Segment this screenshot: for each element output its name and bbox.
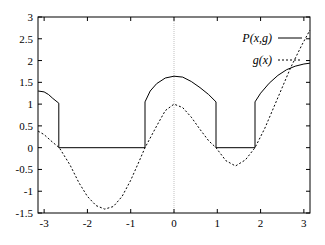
y-tick-label: 0.5 (19, 120, 33, 132)
legend: P(x,g) g(x) (241, 31, 302, 67)
y-tick-label: 2 (28, 55, 34, 67)
y-tick-label: 1.5 (19, 76, 33, 88)
y-tick-label: -1 (24, 185, 33, 197)
x-axis-tick-labels: -3-2-10123 (40, 217, 308, 229)
x-tick-label: -1 (126, 217, 135, 229)
x-tick-label: -3 (40, 217, 50, 229)
y-axis-tick-labels: -1.5-1-0.500.511.522.53 (16, 11, 34, 219)
x-tick-label: 0 (171, 217, 177, 229)
y-tick-label: 1 (28, 98, 34, 110)
legend-label-g: g(x) (253, 53, 272, 67)
x-tick-label: 1 (215, 217, 221, 229)
y-tick-label: -1.5 (16, 207, 34, 219)
x-tick-label: 3 (301, 217, 307, 229)
y-tick-label: 0 (28, 142, 34, 154)
x-tick-label: -2 (83, 217, 92, 229)
y-tick-label: 3 (28, 11, 34, 23)
y-tick-label: 2.5 (19, 33, 33, 45)
chart: -3-2-10123 -1.5-1-0.500.511.522.53 P(x,g… (0, 0, 325, 245)
x-tick-label: 2 (258, 217, 264, 229)
legend-label-p: P(x,g) (241, 31, 272, 45)
y-tick-label: -0.5 (16, 163, 34, 175)
